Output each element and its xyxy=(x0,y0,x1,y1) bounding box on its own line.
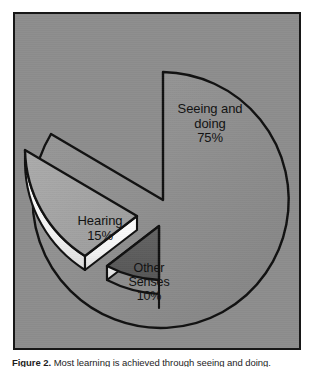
slice-value-seeing-and-doing: 75% xyxy=(158,131,262,146)
figure-caption-label: Figure 2. xyxy=(12,357,51,367)
slice-label-other-line2: Senses xyxy=(128,275,169,289)
chart-frame: Seeing and doing 75% Hearing 15% Other S… xyxy=(13,12,301,350)
slice-label-seeing-line1: Seeing and xyxy=(178,101,243,116)
slice-label-hearing: Hearing 15% xyxy=(59,214,141,243)
slice-label-seeing-and-doing: Seeing and doing 75% xyxy=(158,102,262,146)
figure-caption-text: Most learning is achieved through seeing… xyxy=(51,357,271,367)
slice-label-other-line1: Other xyxy=(134,261,165,275)
slice-label-seeing-line2: doing xyxy=(194,116,225,131)
slice-value-hearing: 15% xyxy=(59,229,141,244)
figure-caption: Figure 2. Most learning is achieved thro… xyxy=(12,357,304,367)
slice-label-other-senses: Other Senses 10% xyxy=(119,261,179,303)
slice-value-other-senses: 10% xyxy=(119,289,179,303)
slice-label-hearing-line1: Hearing xyxy=(78,213,123,228)
figure-container: Seeing and doing 75% Hearing 15% Other S… xyxy=(0,0,314,367)
